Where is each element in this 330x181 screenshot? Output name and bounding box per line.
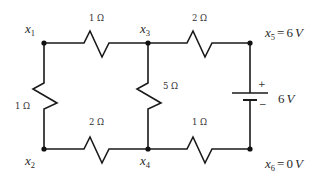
wire-x1-x3-resistor — [44, 31, 148, 57]
battery-voltage-unit: V — [285, 91, 295, 106]
node-dot-x1 — [41, 40, 46, 45]
node-subscript: 4 — [146, 160, 150, 170]
node-dot-x5 — [247, 40, 252, 45]
node-label-x5: x5=6V — [265, 26, 303, 42]
node-label-x2: x2 — [25, 154, 35, 170]
node-subscript: 3 — [146, 28, 150, 38]
resistor-label-x1-x3: 1 Ω — [89, 14, 104, 23]
node-label-x3: x3 — [140, 22, 150, 38]
equals-sign: = — [275, 156, 286, 171]
node-voltage-value: 6 — [286, 25, 293, 40]
node-label-x1: x1 — [25, 22, 35, 38]
resistor-label-x3-x4: 5 Ω — [163, 82, 178, 91]
wire-x2-x4-resistor — [44, 137, 148, 163]
wire-x3-x4-resistor — [137, 43, 161, 149]
node-subscript: 1 — [31, 28, 35, 38]
equals-sign: = — [275, 25, 286, 40]
node-dot-x6 — [247, 146, 252, 151]
battery-plus-sign: + — [258, 80, 266, 89]
node-dot-x3 — [145, 40, 150, 45]
wire-x4-x6-resistor — [148, 137, 250, 163]
node-label-x4: x4 — [140, 154, 150, 170]
resistor-label-x4-x6: 1 Ω — [192, 118, 207, 127]
battery-voltage-value: 6 — [278, 91, 285, 106]
battery-voltage-label: 6V — [278, 90, 294, 106]
resistor-label-x1-x2: 1 Ω — [15, 102, 30, 111]
node-voltage-unit: V — [293, 156, 303, 171]
node-label-x6: x6=0V — [265, 157, 303, 173]
node-dot-x2 — [41, 146, 46, 151]
node-voltage-unit: V — [293, 25, 303, 40]
wire-x1-x2-resistor — [33, 43, 57, 149]
node-voltage-value: 0 — [286, 156, 293, 171]
battery-minus-sign: − — [259, 100, 267, 109]
wire-x3-x5-resistor — [148, 31, 250, 57]
resistor-label-x2-x4: 2 Ω — [89, 118, 104, 127]
node-dot-x4 — [145, 146, 150, 151]
resistor-label-x3-x5: 2 Ω — [192, 14, 207, 23]
node-subscript: 2 — [31, 160, 35, 170]
